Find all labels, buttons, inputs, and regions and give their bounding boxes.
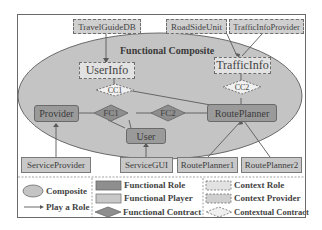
- composite-label: Functional Composite: [120, 46, 214, 56]
- context-role-trafficinfo: TrafficInfo: [214, 57, 271, 74]
- legend-functional-role-label: Functional Role: [124, 181, 185, 190]
- functional-role-routeplanner: RoutePlanner: [207, 104, 277, 122]
- legend-play-role-label: Play a Role: [46, 203, 90, 212]
- fc1-label: FC1: [94, 107, 128, 119]
- player-servicegui: ServiceGUI: [120, 157, 173, 173]
- functional-role-provider: Provider: [34, 105, 79, 122]
- functional-role-user: User: [126, 128, 166, 144]
- player-serviceprovider: ServiceProvider: [21, 157, 91, 173]
- legend-composite-icon: [23, 185, 43, 197]
- player-routeplanner1: RoutePlanner1: [177, 157, 238, 173]
- player-routeplanner2: RoutePlanner2: [241, 157, 302, 173]
- legend-functional-contract-label: Functional Contract: [123, 208, 201, 217]
- cc1-label: CC1: [96, 84, 134, 96]
- legend-contextual-contract-label: Contextual Contract: [234, 208, 309, 217]
- legend-functional-player-icon: [96, 194, 121, 203]
- legend-contextual-contract-icon: [206, 207, 232, 217]
- context-role-userinfo: UserInfo: [79, 62, 135, 79]
- legend-context-provider-icon: [206, 194, 231, 203]
- legend-composite-label: Composite: [46, 187, 87, 196]
- legend-context-role-icon: [206, 181, 231, 190]
- legend-functional-player-label: Functional Player: [124, 194, 193, 203]
- legend-context-role-label: Context Role: [234, 181, 284, 190]
- legend-functional-contract-icon: [95, 207, 121, 217]
- context-provider-travelguidedb: TravelGuideDB: [73, 19, 141, 34]
- legend-context-provider-label: Context Provider: [234, 194, 301, 203]
- context-provider-roadsideunit: RoadSideUnit: [166, 19, 227, 34]
- fc2-label: FC2: [151, 107, 185, 119]
- legend-functional-role-icon: [96, 181, 121, 190]
- legend-arrow-icon: [40, 205, 44, 209]
- context-provider-trafficinfoprovider: TrafficInfoProvider: [229, 19, 304, 34]
- cc2-label: CC2: [223, 81, 261, 93]
